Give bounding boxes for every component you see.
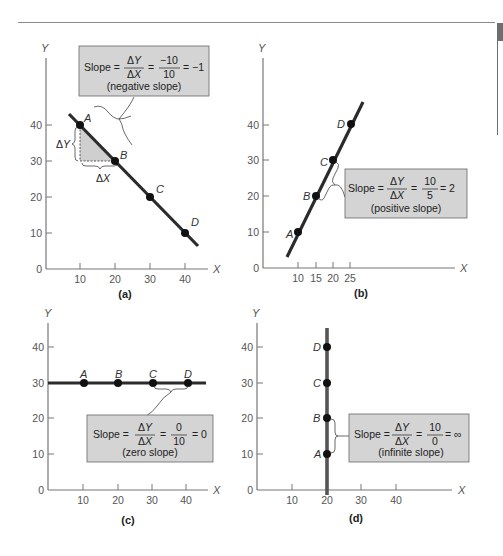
svg-text:(positive slope): (positive slope) — [371, 202, 442, 214]
point-c — [329, 156, 337, 164]
x-ticks: 10 20 30 40 — [77, 484, 192, 506]
svg-text:10: 10 — [74, 273, 86, 285]
svg-text:10: 10 — [424, 175, 436, 187]
point-a — [294, 228, 302, 236]
panel-label-a: (a) — [118, 288, 132, 300]
svg-text:20: 20 — [321, 494, 333, 506]
callout-brace — [331, 419, 338, 453]
svg-text:= ∞: = ∞ — [445, 428, 462, 440]
svg-text:10: 10 — [241, 448, 253, 460]
svg-text:20: 20 — [32, 412, 44, 424]
panel-b: Y X 40 30 20 10 0 10 15 20 25 A B — [247, 42, 468, 299]
svg-text:10: 10 — [429, 421, 441, 433]
svg-text:30: 30 — [355, 494, 367, 506]
delta-y-brace — [72, 127, 78, 161]
point-a-label: A — [285, 228, 293, 240]
svg-text:40: 40 — [179, 273, 191, 285]
point-a-label: A — [83, 112, 91, 124]
point-c — [323, 379, 331, 387]
point-b-label: B — [313, 412, 320, 424]
svg-text:25: 25 — [344, 272, 356, 284]
y-axis-label: Y — [44, 307, 52, 319]
point-c — [149, 379, 157, 387]
point-b — [323, 414, 331, 422]
svg-text:10: 10 — [32, 448, 44, 460]
svg-text:30: 30 — [32, 377, 44, 389]
svg-text:40: 40 — [390, 494, 402, 506]
svg-text:Slope =: Slope = — [84, 61, 120, 73]
svg-text:0: 0 — [36, 263, 42, 275]
point-d-label: D — [337, 118, 345, 130]
slope-callout-b: Slope = ΔY ΔX = 10 5 = 2 (positive slope… — [345, 169, 467, 218]
svg-text:40: 40 — [241, 341, 253, 353]
svg-text:0: 0 — [247, 484, 253, 496]
point-d — [347, 120, 355, 128]
x-ticks: 10 15 20 25 — [292, 262, 356, 284]
svg-text:0: 0 — [38, 484, 44, 496]
y-axis-label: Y — [41, 42, 49, 54]
svg-text:20: 20 — [241, 412, 253, 424]
slope-callout-d: Slope = ΔY ΔX = 10 0 = ∞ (infinite slope… — [349, 414, 469, 462]
delta-y-label: ΔY — [56, 138, 71, 150]
line-negative-slope — [69, 114, 198, 246]
svg-text:20: 20 — [109, 273, 121, 285]
svg-text:10: 10 — [292, 272, 304, 284]
point-b — [111, 157, 119, 165]
svg-text:30: 30 — [241, 377, 253, 389]
point-c-label: C — [149, 368, 157, 380]
svg-text:=: = — [160, 428, 166, 440]
point-b-label: B — [120, 149, 127, 161]
panel-label-d: (d) — [349, 512, 363, 524]
svg-text:ΔY: ΔY — [138, 421, 153, 433]
svg-text:= 2: = 2 — [440, 182, 455, 194]
point-b-label: B — [115, 368, 122, 380]
svg-text:(zero slope): (zero slope) — [122, 446, 177, 458]
point-d — [184, 379, 192, 387]
y-ticks: 40 30 20 10 0 — [32, 341, 54, 496]
svg-text:10: 10 — [77, 494, 89, 506]
svg-text:ΔY: ΔY — [390, 175, 405, 187]
svg-text:Slope =: Slope = — [348, 182, 384, 194]
x-axis-label: X — [459, 262, 468, 274]
svg-text:ΔY: ΔY — [127, 54, 142, 66]
point-d — [323, 343, 331, 351]
svg-text:0: 0 — [253, 262, 259, 274]
point-d-label: D — [184, 368, 192, 380]
svg-text:−10: −10 — [160, 54, 178, 66]
x-axis-label: X — [212, 263, 221, 275]
point-c — [146, 193, 154, 201]
panel-label-b: (b) — [354, 287, 368, 299]
svg-text:Slope =: Slope = — [354, 428, 390, 440]
point-a — [80, 379, 88, 387]
svg-text:= −1: = −1 — [183, 61, 204, 73]
svg-text:15: 15 — [310, 272, 322, 284]
svg-text:ΔY: ΔY — [395, 421, 410, 433]
svg-text:10: 10 — [163, 68, 175, 80]
panel-a: Y X 40 30 20 10 0 10 20 30 40 — [30, 42, 221, 300]
y-axis-label: Y — [252, 307, 260, 319]
point-b-label: B — [303, 190, 310, 202]
callout-brace — [154, 386, 188, 392]
point-a — [323, 450, 331, 458]
svg-text:20: 20 — [112, 494, 124, 506]
svg-text:40: 40 — [32, 341, 44, 353]
point-b — [114, 379, 122, 387]
svg-text:20: 20 — [327, 272, 339, 284]
svg-text:20: 20 — [30, 191, 42, 203]
svg-text:=: = — [148, 61, 154, 73]
point-a-label: A — [313, 448, 321, 460]
svg-text:=: = — [411, 182, 417, 194]
svg-text:(negative slope): (negative slope) — [107, 80, 182, 92]
svg-text:30: 30 — [146, 494, 158, 506]
svg-text:5: 5 — [427, 189, 433, 201]
svg-text:40: 40 — [180, 494, 192, 506]
svg-text:20: 20 — [247, 190, 259, 202]
svg-text:(infinite slope): (infinite slope) — [378, 446, 443, 458]
svg-text:= 0: = 0 — [192, 428, 207, 440]
svg-text:30: 30 — [247, 154, 259, 166]
point-d — [181, 229, 189, 237]
point-a — [76, 121, 84, 129]
slope-figure: Y X 40 30 20 10 0 10 20 30 40 — [0, 0, 503, 556]
svg-text:ΔX: ΔX — [390, 189, 405, 201]
svg-text:40: 40 — [247, 119, 259, 131]
